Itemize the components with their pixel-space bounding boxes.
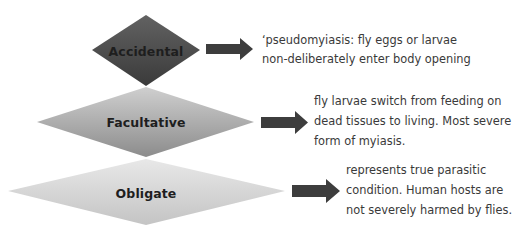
right-arrow-icon (206, 38, 253, 60)
description-line: fly larvae switch from feeding on (314, 91, 511, 111)
obligate-description: represents true parasitic condition. Hum… (346, 160, 512, 220)
description-line: represents true parasitic (346, 160, 512, 180)
right-arrow-icon (292, 179, 340, 203)
right-arrow-icon (261, 111, 308, 134)
obligate-label: Obligate (116, 186, 177, 201)
accidental-label: Accidental (109, 44, 184, 59)
accidental-description: ‘pseudomyiasis: fly eggs or larvae non-d… (262, 31, 471, 69)
description-line: form of myiasis. (314, 131, 511, 151)
description-line: dead tissues to living. Most severe (314, 111, 511, 131)
facultative-label: Facultative (106, 115, 185, 130)
description-line: ‘pseudomyiasis: fly eggs or larvae (262, 31, 471, 50)
description-line: not severely harmed by flies. (346, 200, 512, 220)
description-line: non-deliberately enter body opening (262, 50, 471, 69)
facultative-description: fly larvae switch from feeding on dead t… (314, 91, 511, 151)
description-line: condition. Human hosts are (346, 180, 512, 200)
